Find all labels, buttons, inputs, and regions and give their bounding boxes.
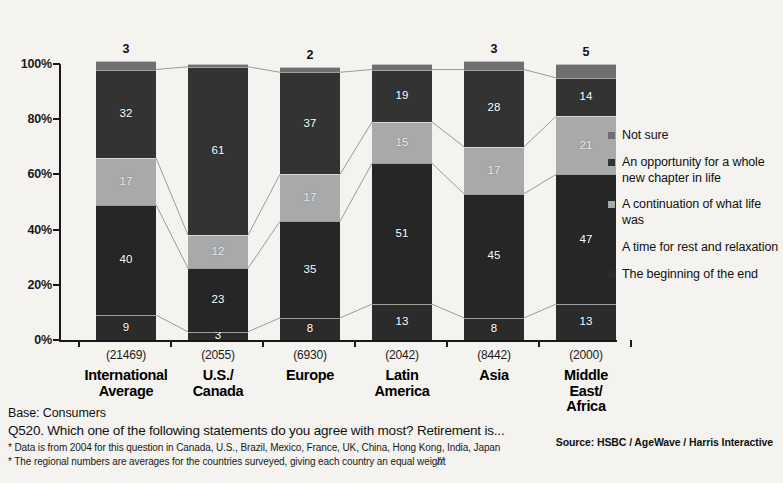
category-base-size: (21469) [78, 348, 174, 362]
legend-item-0[interactable]: Not sure [608, 128, 780, 144]
legend-item-2[interactable]: A continuation of what life was [608, 197, 780, 229]
connector-line [156, 315, 188, 332]
bar-segment[interactable]: 19 [372, 70, 432, 122]
segment-value-label: 61 [212, 145, 225, 157]
segment-divider [188, 64, 248, 65]
bar-segment[interactable]: 47 [556, 174, 616, 304]
x-axis-group-2: (6930)Europe [262, 348, 358, 384]
legend-item-1[interactable]: An opportunity for a whole new chapter i… [608, 155, 780, 187]
bar-4[interactable]: 84517283 [464, 61, 524, 340]
segment-divider [280, 174, 340, 175]
x-axis-line [59, 340, 617, 342]
legend-label: The beginning of the end [622, 267, 758, 283]
segment-value-label: 45 [488, 250, 501, 262]
bar-segment[interactable]: 23 [188, 268, 248, 331]
x-axis-group-0: (21469)InternationalAverage [78, 348, 174, 399]
connector-line [156, 67, 188, 70]
segment-value-label: 8 [491, 323, 497, 335]
segment-divider [96, 205, 156, 206]
legend-label: A time for rest and relaxation [622, 240, 778, 256]
segment-value-label: 13 [580, 316, 593, 328]
segment-value-label: 17 [488, 165, 501, 177]
y-tick-mark [53, 339, 60, 341]
segment-divider [556, 304, 616, 305]
segment-divider [188, 67, 248, 68]
y-tick-label: 60% [28, 167, 52, 181]
legend-swatch-icon [608, 132, 615, 139]
segment-divider [464, 147, 524, 148]
bar-segment[interactable]: 3 [188, 332, 248, 340]
bar-top-label: 3 [464, 42, 524, 56]
legend-label: Not sure [622, 128, 668, 144]
bar-segment[interactable]: 61 [188, 67, 248, 235]
bar-segment[interactable]: 17 [96, 158, 156, 205]
bar-segment[interactable]: 17 [280, 174, 340, 221]
y-tick-mark [53, 284, 60, 286]
x-tick-mark [170, 340, 172, 347]
segment-value-label: 12 [212, 246, 225, 258]
bar-segment[interactable]: 14 [556, 78, 616, 117]
segment-value-label: 15 [396, 137, 409, 149]
bar-segment[interactable]: 15 [372, 122, 432, 163]
segment-divider [372, 304, 432, 305]
segment-value-label: 17 [120, 176, 133, 188]
segment-value-label: 37 [304, 118, 317, 130]
bar-segment[interactable] [96, 61, 156, 69]
handwritten-mark: // [437, 455, 443, 467]
segment-divider [280, 221, 340, 222]
bar-segment[interactable]: 32 [96, 70, 156, 158]
bar-1[interactable]: 3231261 [188, 64, 248, 340]
bar-segment[interactable]: 9 [96, 315, 156, 340]
bar-top-label: 3 [96, 42, 156, 56]
bar-segment[interactable]: 28 [464, 70, 524, 147]
segment-value-label: 35 [304, 264, 317, 276]
connector-line [432, 163, 464, 193]
bar-segment[interactable]: 8 [280, 318, 340, 340]
bar-segment[interactable]: 17 [464, 147, 524, 194]
bar-segment[interactable] [556, 64, 616, 78]
segment-divider [556, 116, 616, 117]
bar-segment[interactable]: 45 [464, 194, 524, 318]
bar-5[interactable]: 134721145 [556, 64, 616, 340]
category-label: LatinAmerica [354, 368, 450, 399]
legend-item-3[interactable]: A time for rest and relaxation [608, 240, 780, 256]
category-base-size: (2042) [354, 348, 450, 362]
legend-item-4[interactable]: The beginning of the end [608, 267, 780, 283]
connector-line [524, 174, 556, 193]
category-label: InternationalAverage [78, 368, 174, 399]
bar-top-label: 2 [280, 48, 340, 62]
connector-line [248, 67, 280, 73]
legend-swatch-icon [608, 159, 615, 166]
bar-segment[interactable]: 21 [556, 116, 616, 174]
connector-line [156, 158, 188, 235]
bar-2[interactable]: 83517372 [280, 67, 340, 340]
y-tick-mark [53, 118, 60, 120]
category-base-size: (6930) [262, 348, 358, 362]
bar-segment[interactable]: 8 [464, 318, 524, 340]
segment-value-label: 32 [120, 108, 133, 120]
bar-segment[interactable]: 35 [280, 221, 340, 318]
y-tick-label: 40% [28, 223, 52, 237]
bar-0[interactable]: 94017323 [96, 61, 156, 340]
y-tick-label: 20% [28, 278, 52, 292]
bar-segment[interactable]: 37 [280, 72, 340, 174]
segment-divider [188, 235, 248, 236]
connector-line [524, 116, 556, 146]
bar-segment[interactable]: 40 [96, 205, 156, 315]
x-axis-group-1: (2055)U.S./Canada [170, 348, 266, 399]
segment-value-label: 9 [123, 322, 129, 334]
segment-value-label: 8 [307, 323, 313, 335]
segment-value-label: 17 [304, 192, 317, 204]
connector-line [432, 304, 464, 318]
connector-line [248, 318, 280, 332]
legend-label: An opportunity for a whole new chapter i… [622, 155, 780, 187]
bar-segment[interactable]: 13 [556, 304, 616, 340]
bar-segment[interactable] [464, 61, 524, 69]
segment-divider [372, 64, 432, 65]
bar-3[interactable]: 13511519 [372, 64, 432, 340]
bar-segment[interactable]: 51 [372, 163, 432, 304]
bar-segment[interactable]: 12 [188, 235, 248, 268]
segment-divider [96, 315, 156, 316]
bar-segment[interactable]: 13 [372, 304, 432, 340]
footer-note-2: * The regional numbers are averages for … [8, 455, 783, 469]
